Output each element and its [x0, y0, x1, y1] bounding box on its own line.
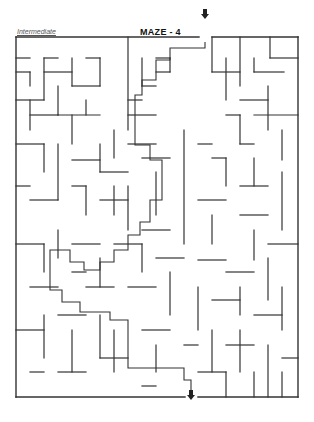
maze-board: [0, 0, 314, 422]
maze-walls: [16, 37, 298, 397]
entry-arrow-icon: [201, 9, 209, 19]
exit-arrow-icon: [187, 390, 195, 400]
